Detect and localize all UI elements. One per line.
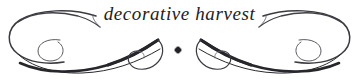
diamond-dot-icon [175,47,182,54]
ornament-banner: decorative harvest [0,0,359,80]
flourish-swash-left-icon [9,11,162,73]
decorative-flourish-graphic [0,0,359,80]
flourish-swash-right-icon [196,11,349,73]
